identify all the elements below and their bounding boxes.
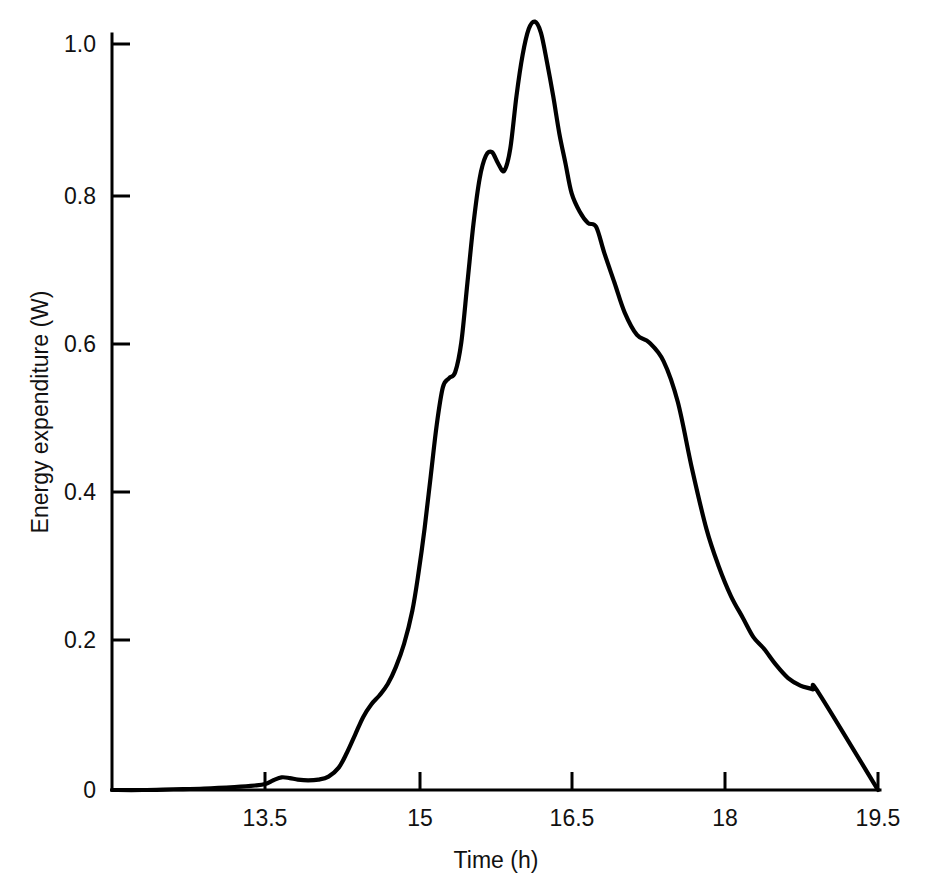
y-tick-label-0: 0 bbox=[83, 777, 96, 803]
x-tick-label-19.5: 19.5 bbox=[856, 805, 901, 831]
x-tick-label-15: 15 bbox=[407, 805, 433, 831]
y-tick-label-1.0: 1.0 bbox=[64, 31, 96, 57]
y-tick-label-0.2: 0.2 bbox=[64, 627, 96, 653]
x-tick-label-16.5: 16.5 bbox=[550, 805, 595, 831]
y-tick-label-0.6: 0.6 bbox=[64, 331, 96, 357]
y-tick-label-0.8: 0.8 bbox=[64, 183, 96, 209]
chart-background bbox=[0, 0, 927, 888]
y-axis-title: Energy expenditure (W) bbox=[27, 291, 53, 534]
x-tick-label-18: 18 bbox=[712, 805, 738, 831]
figure-container: 1.0 0.8 0.6 0.4 0.2 0 13.5 15 16.5 18 19… bbox=[0, 0, 927, 888]
x-tick-label-13.5: 13.5 bbox=[243, 805, 288, 831]
x-axis-title: Time (h) bbox=[454, 847, 539, 873]
energy-expenditure-line-chart: 1.0 0.8 0.6 0.4 0.2 0 13.5 15 16.5 18 19… bbox=[0, 0, 927, 888]
y-tick-label-0.4: 0.4 bbox=[64, 479, 96, 505]
